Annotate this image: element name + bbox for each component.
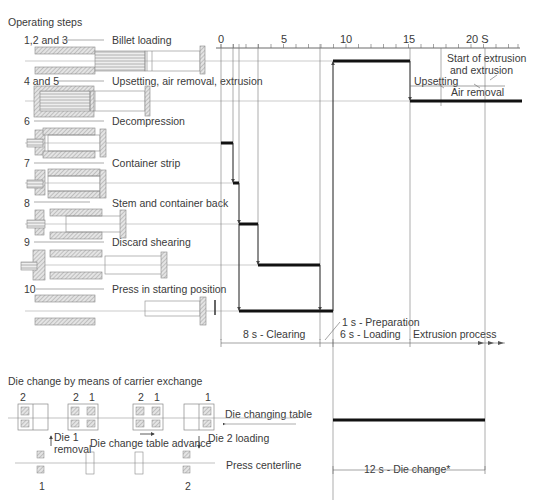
subphase-dimension-line <box>410 75 505 88</box>
schematic-billet-loading <box>35 46 205 74</box>
die-change-dimension-line <box>333 466 485 474</box>
transition-arrows <box>233 61 410 311</box>
die-change-schematic <box>8 404 296 480</box>
schematic-upsetting <box>34 86 150 117</box>
schematic-press-starting <box>35 295 215 325</box>
phase-dimension-line <box>221 322 505 347</box>
phase-arrowheads <box>478 341 504 345</box>
operating-steps-diagram: Operating steps 1,2 and 3 4 and 5 6 7 8 … <box>0 0 539 504</box>
time-gridlines <box>221 44 485 500</box>
time-axis <box>216 44 520 48</box>
diagram-graphics <box>0 0 539 504</box>
gantt-bars <box>221 61 522 420</box>
schematic-container-strip <box>27 169 106 198</box>
